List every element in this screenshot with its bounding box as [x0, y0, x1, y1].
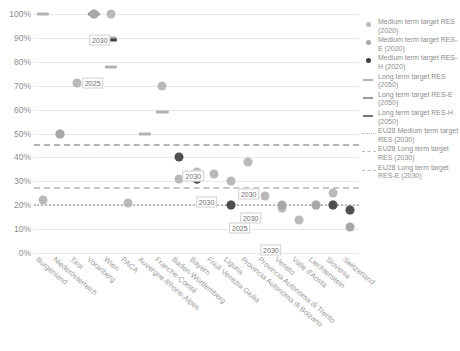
y-axis-tick-label: 10%	[14, 224, 31, 234]
legend-item[interactable]: EU28 Medium term target RES (2030)	[362, 127, 460, 144]
y-axis-tick-label: 80%	[14, 57, 31, 67]
data-point	[209, 170, 218, 179]
data-point	[295, 215, 304, 224]
grid-line	[34, 110, 359, 111]
grid-line	[34, 253, 359, 254]
data-point	[329, 201, 338, 210]
legend-item[interactable]: Long term target RES (2050)	[362, 73, 460, 90]
year-annotation-label: 2030	[183, 171, 205, 182]
year-annotation-label: 2025	[82, 78, 104, 89]
eu28-reference-line	[34, 187, 359, 189]
y-axis-tick-label: 30%	[14, 176, 31, 186]
grid-line	[34, 229, 359, 230]
data-point	[260, 191, 269, 200]
x-axis-tick-label: PACA	[119, 255, 140, 275]
year-annotation-label: 2030	[240, 212, 262, 223]
data-point	[175, 153, 184, 162]
y-axis-tick-label: 70%	[14, 81, 31, 91]
legend-key	[362, 74, 378, 84]
year-annotation-label: 2025	[229, 223, 251, 234]
legend-key	[362, 92, 378, 102]
legend-item[interactable]: Long term target RES-E (2050)	[362, 91, 460, 108]
data-point	[312, 201, 321, 210]
legend-item[interactable]: EU28 Long term target RES (2030)	[362, 145, 460, 162]
grid-line	[34, 62, 359, 63]
data-point	[89, 10, 98, 19]
chart-container: 100%90%80%70%60%50%40%30%20%10%0% 203020…	[0, 0, 460, 351]
legend-dash-icon	[363, 97, 373, 99]
long-term-target-marker	[105, 65, 117, 68]
data-point	[329, 189, 338, 198]
y-axis-tick-label: 60%	[14, 105, 31, 115]
legend-item[interactable]: Medium term target RES-H (2020)	[362, 54, 460, 71]
data-point	[226, 201, 235, 210]
legend-item-label: EU28 Long term target RES (2030)	[378, 145, 460, 162]
data-point	[72, 79, 81, 88]
legend-dashed-line-icon	[362, 170, 376, 171]
data-point	[346, 222, 355, 231]
y-axis-tick-label: 50%	[14, 129, 31, 139]
legend-item[interactable]: Long term target RES-H (2050)	[362, 109, 460, 126]
grid-line	[34, 134, 359, 135]
y-axis-tick-label: 20%	[14, 200, 31, 210]
data-point	[346, 205, 355, 214]
legend-key	[362, 55, 378, 65]
legend-item-label: Long term target RES-E (2050)	[378, 91, 460, 108]
legend-item-label: Long term target RES-H (2050)	[378, 109, 460, 126]
chart-legend: Medium term target RES (2020)Medium term…	[362, 18, 460, 182]
legend-key	[362, 128, 378, 138]
legend-item-label: EU28 Medium term target RES (2030)	[378, 127, 460, 144]
legend-item[interactable]: Medium term target RES (2020)	[362, 18, 460, 35]
legend-dashed-line-icon	[362, 151, 376, 152]
y-axis-tick-label: 0%	[19, 248, 31, 258]
legend-item[interactable]: Medium term target RES-E (2020)	[362, 36, 460, 53]
y-axis-tick-label: 40%	[14, 152, 31, 162]
data-point	[243, 158, 252, 167]
legend-item-label: EU28 Long term target RES-E (2030)	[378, 164, 460, 181]
long-term-target-marker	[36, 13, 48, 16]
eu28-reference-line	[34, 144, 359, 146]
year-annotation-label: 2030	[196, 197, 218, 208]
data-point	[158, 81, 167, 90]
legend-dot-icon	[366, 40, 371, 45]
legend-key	[362, 37, 378, 47]
data-point	[38, 196, 47, 205]
y-axis-tick-label: 90%	[14, 33, 31, 43]
legend-dot-icon	[366, 58, 371, 63]
legend-dash-icon	[363, 79, 373, 81]
legend-item-label: Medium term target RES (2020)	[378, 18, 460, 35]
legend-key	[362, 110, 378, 120]
legend-key	[362, 146, 378, 156]
legend-item-label: Medium term target RES-E (2020)	[378, 36, 460, 53]
data-point	[55, 129, 64, 138]
y-axis: 100%90%80%70%60%50%40%30%20%10%0%	[0, 14, 31, 253]
legend-key	[362, 165, 378, 175]
y-axis-tick-label: 100%	[9, 9, 31, 19]
legend-item[interactable]: EU28 Long term target RES-E (2030)	[362, 164, 460, 181]
grid-line	[34, 14, 359, 15]
long-term-target-marker	[156, 110, 168, 113]
data-point	[226, 177, 235, 186]
legend-dotted-line-icon	[362, 133, 376, 134]
legend-item-label: Long term target RES (2050)	[378, 73, 460, 90]
x-axis-labels: BurgenlandNiederösterreichTirolVorarlber…	[34, 255, 359, 351]
data-point	[124, 198, 133, 207]
legend-dot-icon	[366, 22, 371, 27]
legend-dash-icon	[363, 115, 373, 117]
grid-line	[34, 157, 359, 158]
year-annotation-label: 2030	[89, 34, 111, 45]
grid-line	[34, 38, 359, 39]
year-annotation-label: 2030	[238, 189, 260, 200]
data-point	[278, 201, 287, 210]
long-term-target-marker	[139, 132, 151, 135]
data-point	[106, 10, 115, 19]
legend-key	[362, 19, 378, 29]
legend-item-label: Medium term target RES-H (2020)	[378, 54, 460, 71]
plot-area: 20302025203020302030203020252030	[34, 14, 359, 253]
